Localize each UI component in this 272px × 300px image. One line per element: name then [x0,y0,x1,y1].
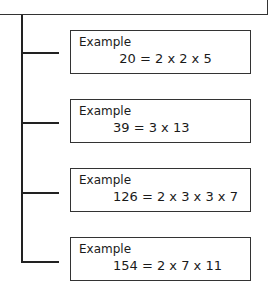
branch-line-1 [21,52,59,54]
branch-line-4 [21,261,59,263]
example-box-1: Example 20 = 2 x 2 x 5 [70,30,251,74]
example-label: Example [79,242,131,256]
example-label: Example [79,35,131,49]
parent-box [0,0,268,15]
example-box-2: Example 39 = 3 x 13 [70,99,251,143]
example-label: Example [79,173,131,187]
branch-line-3 [21,192,59,194]
example-box-4: Example 154 = 2 x 7 x 11 [70,237,251,281]
example-equation: 39 = 3 x 13 [113,120,250,135]
example-label: Example [79,104,131,118]
branch-line-2 [21,122,59,124]
example-equation: 126 = 2 x 3 x 3 x 7 [113,189,250,204]
example-equation: 20 = 2 x 2 x 5 [71,51,250,66]
example-equation: 154 = 2 x 7 x 11 [113,258,250,273]
example-box-3: Example 126 = 2 x 3 x 3 x 7 [70,168,251,212]
